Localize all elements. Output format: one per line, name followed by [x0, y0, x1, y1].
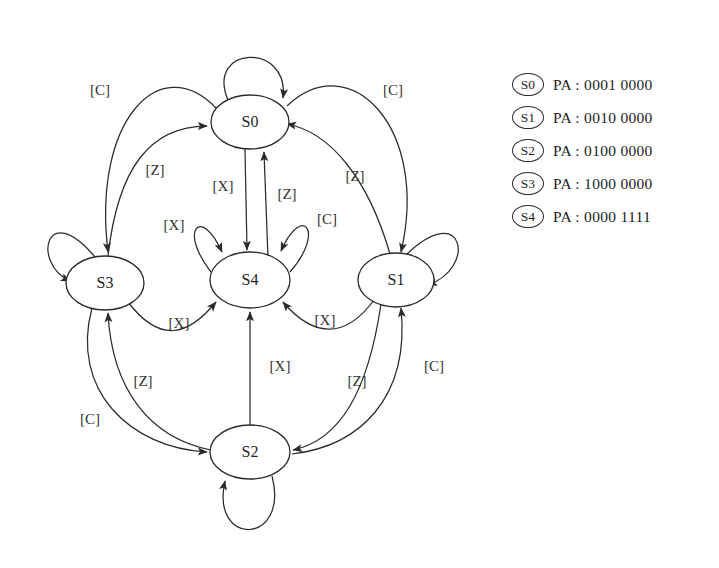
- edge-s1-to-s0: [287, 124, 390, 254]
- state-node-s3[interactable]: S3: [66, 256, 144, 310]
- edge-label-s4-self-c: [C]: [317, 211, 337, 227]
- state-label-s4: S4: [242, 271, 259, 288]
- edge-label-s1-s0-z: [Z]: [345, 168, 364, 184]
- legend-text-s3: PA : 1000 0000: [553, 175, 653, 193]
- state-label-s3: S3: [97, 274, 114, 291]
- edge-label-s0-s4-x: [X]: [213, 178, 234, 194]
- edge-label-s1-s4-x: [X]: [315, 312, 336, 328]
- edge-label-s2-s4-x: [X]: [270, 358, 291, 374]
- state-node-s1[interactable]: S1: [358, 253, 434, 307]
- edge-label-s2-s1-c: [C]: [424, 358, 444, 374]
- legend-panel: S0 PA : 0001 0000 S1 PA : 0010 0000 S2 P…: [512, 68, 712, 233]
- edge-s1-to-s2: [293, 304, 381, 450]
- edge-label-s4-s0-z: [Z]: [277, 186, 296, 202]
- legend-text-s0: PA : 0001 0000: [553, 76, 653, 94]
- edge-label-s3-s0-z: [Z]: [145, 162, 164, 178]
- edge-s2-s2-self: [223, 476, 275, 530]
- legend-badge-s1: S1: [512, 106, 544, 129]
- state-node-s0[interactable]: S0: [211, 95, 289, 149]
- edge-s4-self-right: [281, 226, 309, 272]
- legend-badge-s3: S3: [512, 172, 544, 195]
- legend-badge-s4: S4: [512, 205, 544, 228]
- legend-row-s1: S1 PA : 0010 0000: [512, 101, 712, 134]
- edge-s3-to-s0: [108, 126, 207, 256]
- legend-badge-s0: S0: [512, 73, 544, 96]
- edge-label-s2-s3-z: [Z]: [133, 373, 152, 389]
- state-label-s2: S2: [242, 443, 259, 460]
- legend-row-s3: S3 PA : 1000 0000: [512, 167, 712, 200]
- state-node-s2[interactable]: S2: [210, 425, 290, 479]
- state-label-s0: S0: [242, 113, 259, 130]
- state-node-s4[interactable]: S4: [210, 252, 290, 308]
- legend-text-s4: PA : 0000 1111: [553, 208, 651, 226]
- legend-row-s0: S0 PA : 0001 0000: [512, 68, 712, 101]
- legend-row-s4: S4 PA : 0000 1111: [512, 200, 712, 233]
- edge-label-s0-s1-c: [C]: [383, 82, 403, 98]
- edge-label-s1-s2-z: [Z]: [347, 373, 366, 389]
- edge-s0-s0-self: [224, 57, 283, 100]
- legend-text-s1: PA : 0010 0000: [553, 109, 653, 127]
- edge-label-s4-self-x: [X]: [164, 217, 185, 233]
- edge-label-s0-s3-c: [C]: [90, 82, 110, 98]
- legend-row-s2: S2 PA : 0100 0000: [512, 134, 712, 167]
- edge-label-s3-s2-c: [C]: [80, 411, 100, 427]
- edge-label-s3-s4-x: [X]: [169, 315, 190, 331]
- legend-text-s2: PA : 0100 0000: [553, 142, 653, 160]
- state-label-s1: S1: [388, 271, 405, 288]
- edge-s0-to-s4: [245, 149, 247, 250]
- edge-s2-to-s3: [108, 313, 211, 450]
- diagram-canvas: S0 S3 S4 S1 S2 [C] [Z] [C] [Z]: [0, 0, 719, 568]
- edge-s4-to-s0: [264, 152, 268, 258]
- legend-badge-s2: S2: [512, 139, 544, 162]
